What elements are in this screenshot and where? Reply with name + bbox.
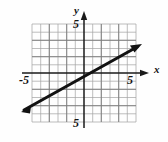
y-axis-label: y	[74, 5, 79, 16]
x-tick-positive-5: 5	[127, 74, 133, 86]
y-axis	[81, 11, 87, 128]
x-axis-label: x	[154, 64, 160, 75]
plotted-line	[21, 44, 142, 114]
x-tick-negative-5: -5	[19, 74, 29, 86]
graph-figure: y x 5 5 -5 5	[0, 0, 168, 142]
y-tick-positive-5: 5	[73, 18, 79, 30]
y-tick-negative-5: 5	[73, 117, 79, 129]
coordinate-plane-svg	[0, 0, 168, 142]
